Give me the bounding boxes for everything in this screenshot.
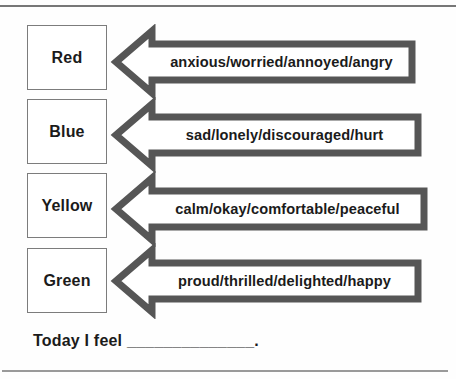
color-box-red: Red — [27, 25, 107, 90]
fill-in-prompt: Today I feel ______________. — [33, 332, 259, 350]
color-feelings-worksheet: Red anxious/worried/annoyed/angry Blue s… — [0, 0, 456, 379]
bottom-rule — [2, 370, 448, 372]
color-box-green: Green — [27, 248, 107, 313]
color-box-yellow: Yellow — [27, 173, 107, 238]
color-box-blue: Blue — [27, 99, 107, 164]
feelings-label-yellow: calm/okay/comfortable/peaceful — [152, 199, 423, 219]
color-label-green: Green — [43, 272, 90, 290]
top-rule — [0, 5, 456, 7]
feelings-label-red: anxious/worried/annoyed/angry — [152, 52, 411, 72]
color-label-red: Red — [52, 49, 83, 67]
feelings-label-blue: sad/lonely/discouraged/hurt — [152, 125, 417, 145]
feelings-label-green: proud/thrilled/delighted/happy — [152, 271, 417, 291]
color-label-blue: Blue — [49, 123, 84, 141]
color-label-yellow: Yellow — [42, 197, 93, 215]
